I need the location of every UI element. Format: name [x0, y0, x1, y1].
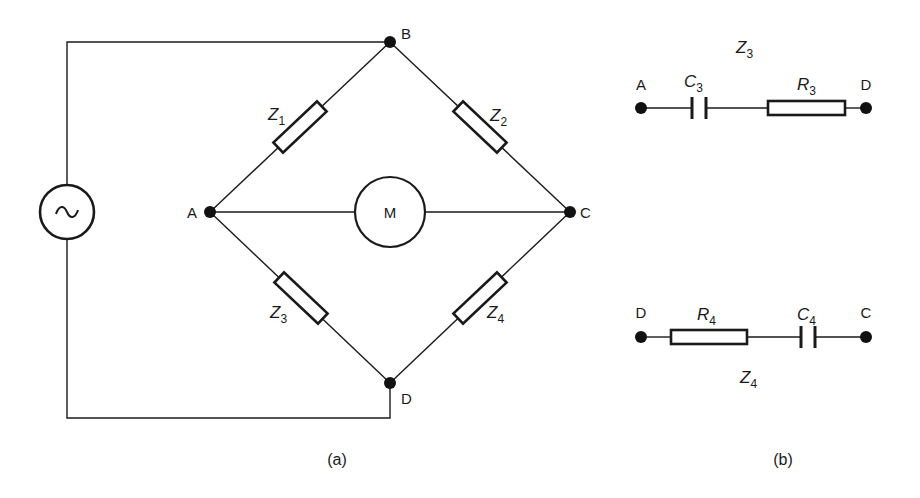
panel-b-caption: (b): [773, 451, 793, 468]
z4-label: Z4: [486, 303, 504, 326]
node-b-dot: [384, 36, 396, 48]
z1-label: Z1: [267, 105, 285, 128]
capacitor-c3-icon: [692, 97, 706, 119]
capacitor-c4-icon: [801, 326, 815, 348]
top-supply-wire: [67, 42, 390, 185]
z4-node-c-label: C: [861, 304, 872, 321]
c4-label: C4: [797, 305, 816, 328]
resistor-r4-icon: [671, 330, 747, 344]
c3-label: C3: [684, 72, 703, 95]
z2-label: Z2: [489, 106, 507, 129]
bottom-supply-wire: [67, 239, 390, 418]
resistor-r3-icon: [768, 101, 845, 115]
z4-title: Z4: [739, 368, 757, 391]
z3-label: Z3: [269, 303, 287, 326]
node-a-dot: [204, 206, 216, 218]
node-b-label: B: [401, 25, 411, 42]
z3-node-a-dot: [635, 102, 647, 114]
z4-equivalent-circuit: D C R4 C4 Z4: [635, 304, 872, 391]
z4-node-c-dot: [860, 331, 872, 343]
r3-label: R3: [797, 75, 816, 98]
z3-node-d-label: D: [861, 76, 872, 93]
node-c-dot: [564, 206, 576, 218]
z4-node-d-dot: [635, 331, 647, 343]
ac-bridge-circuit-diagram: M B A C D Z1 Z2 Z3 Z4 (a) Z3 A D C3 R3: [0, 0, 920, 498]
node-a-label: A: [187, 204, 197, 221]
z3-title: Z3: [735, 38, 753, 61]
panel-a: M B A C D Z1 Z2 Z3 Z4 (a): [40, 25, 591, 468]
ac-source-icon: [40, 185, 94, 239]
z3-node-a-label: A: [636, 76, 646, 93]
panel-b: Z3 A D C3 R3 D C R4 C4: [635, 38, 872, 468]
z3-equivalent-circuit: Z3 A D C3 R3: [635, 38, 872, 119]
meter-label: M: [384, 204, 397, 221]
z4-node-d-label: D: [636, 304, 647, 321]
z3-node-d-dot: [860, 102, 872, 114]
panel-a-caption: (a): [327, 451, 347, 468]
node-c-label: C: [580, 204, 591, 221]
r4-label: R4: [697, 305, 716, 328]
node-d-label: D: [401, 390, 412, 407]
node-d-dot: [384, 377, 396, 389]
